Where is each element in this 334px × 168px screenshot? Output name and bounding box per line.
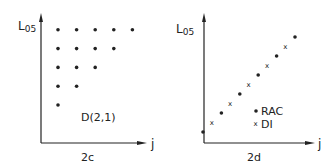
marks-2d: xxxxx <box>201 35 297 134</box>
point-2d-di-3: x <box>265 62 269 70</box>
panel-label-2d: 2d <box>247 151 261 164</box>
x-label-2d: j <box>317 137 321 151</box>
point-2c-d-2-1-points-6 <box>75 47 79 51</box>
x-axis-arrow-2c <box>137 141 147 145</box>
point-2d-rac-1 <box>220 111 224 115</box>
legend-marker-di: x <box>254 120 258 128</box>
legend-label-di: DI <box>261 118 273 131</box>
point-2c-d-2-1-points-3 <box>112 28 116 32</box>
panel-2c: L05 j D(2,1) 2c <box>18 13 154 164</box>
figure: L05 j D(2,1) 2c L05 j 2d RAC x DI xxxxx <box>0 0 334 168</box>
marks-2c <box>56 28 134 107</box>
point-2c-d-2-1-points-11 <box>93 66 97 70</box>
point-2d-di-0: x <box>210 119 214 127</box>
point-2d-rac-4 <box>275 54 279 58</box>
point-2c-d-2-1-points-9 <box>56 66 60 70</box>
point-2c-d-2-1-points-10 <box>75 66 79 70</box>
legend-2d: RAC x DI <box>254 105 284 131</box>
point-2d-di-1: x <box>228 100 232 108</box>
point-2c-d-2-1-points-5 <box>56 47 60 51</box>
legend-marker-rac <box>254 109 258 113</box>
panel-label-2c: 2c <box>81 151 94 164</box>
x-axis-arrow-2d <box>305 141 315 145</box>
point-2c-d-2-1-points-4 <box>131 28 135 32</box>
point-2d-rac-3 <box>256 73 260 77</box>
point-2c-d-2-1-points-7 <box>93 47 97 51</box>
panel-2d: L05 j 2d RAC x DI xxxxx <box>176 13 321 164</box>
y-axis-arrow-2c <box>39 13 43 22</box>
x-label-2c: j <box>150 137 154 151</box>
point-2c-d-2-1-points-0 <box>56 28 60 32</box>
point-2d-di-4: x <box>283 43 287 51</box>
point-2d-rac-2 <box>238 92 242 96</box>
annotation-2c: D(2,1) <box>81 111 116 124</box>
point-2d-di-2: x <box>247 81 251 89</box>
point-2c-d-2-1-points-12 <box>56 84 60 88</box>
legend-label-rac: RAC <box>261 105 284 118</box>
point-2c-d-2-1-points-14 <box>56 103 60 107</box>
point-2c-d-2-1-points-2 <box>93 28 97 32</box>
y-axis-arrow-2d <box>202 13 206 22</box>
point-2c-d-2-1-points-13 <box>75 84 79 88</box>
point-2d-rac-5 <box>293 35 297 39</box>
point-2d-rac-0 <box>201 130 205 134</box>
point-2c-d-2-1-points-1 <box>75 28 79 32</box>
point-2c-d-2-1-points-8 <box>112 47 116 51</box>
y-label-2d: L05 <box>176 22 194 37</box>
y-label-2c: L05 <box>18 19 36 34</box>
